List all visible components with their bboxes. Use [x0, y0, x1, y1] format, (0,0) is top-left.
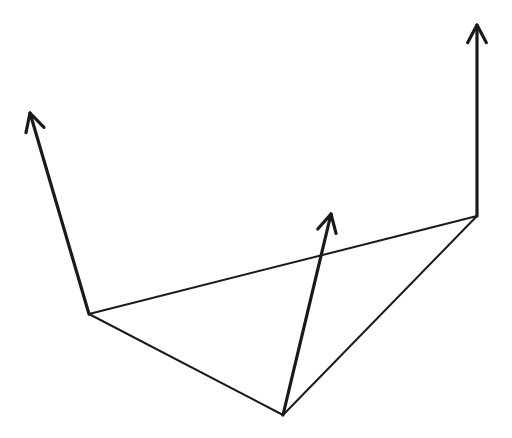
normal-right-arrow-icon — [468, 25, 487, 216]
triangle-edge-0 — [89, 216, 477, 314]
normal-bottom-arrow-icon — [283, 214, 336, 415]
triangle-normals-diagram — [0, 0, 512, 438]
vertex-normal-arrows — [26, 25, 486, 415]
normal-left-arrow-icon — [26, 113, 89, 314]
triangle-edge-2 — [283, 216, 477, 415]
triangle-edge-1 — [89, 314, 283, 415]
triangle-edges — [89, 216, 477, 415]
